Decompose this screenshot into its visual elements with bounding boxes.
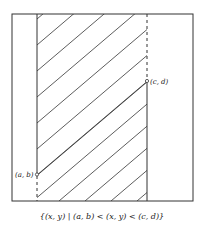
hatch-line (33, 82, 173, 201)
label-c-d: (c, d) (150, 78, 169, 86)
diagram-canvas: (a, b) (c, d) {(x, y) | (a, b) < (x, y) … (0, 0, 205, 230)
hatch-line (37, 0, 205, 71)
hatch-line (59, 82, 199, 201)
hatch-line (37, 0, 205, 97)
hatch-line (37, 0, 205, 45)
label-a-b: (a, b) (15, 171, 34, 179)
hatch-line (37, 5, 205, 175)
hatch-line (37, 0, 205, 19)
point-c-d (145, 79, 148, 82)
point-a-b (35, 173, 38, 176)
hatch-line (189, 82, 205, 201)
caption: {(x, y) | (a, b) < (x, y) < (c, d)} (40, 212, 164, 221)
hatch-line (163, 82, 205, 201)
